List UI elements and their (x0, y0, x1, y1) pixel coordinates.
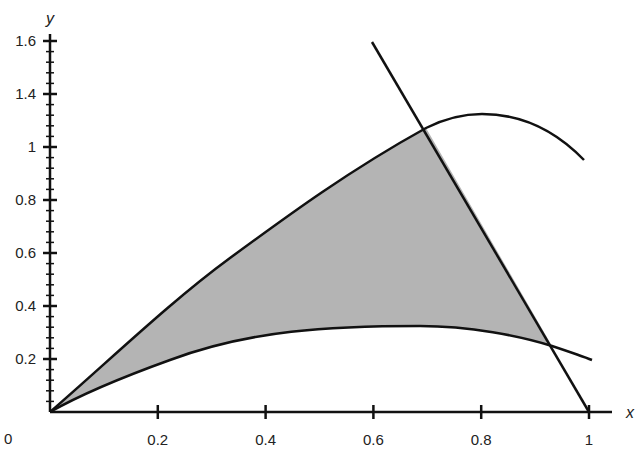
y-tick-label: 0.4 (15, 297, 36, 314)
origin-label: 0 (4, 430, 12, 447)
y-tick-label: 1.4 (15, 85, 36, 102)
y-tick-label: 0.8 (15, 191, 36, 208)
shaded-region (50, 128, 552, 412)
x-tick-label: 0.2 (147, 431, 168, 448)
y-tick-label: 0.6 (15, 244, 36, 261)
y-tick-label: 0.2 (15, 350, 36, 367)
y-tick-label: 1 (28, 138, 36, 155)
x-tick-label: 1 (585, 431, 593, 448)
x-tick-label: 0.4 (255, 431, 276, 448)
chart: 0.20.40.60.811.41.6 0.20.40.60.81 y x 0 (0, 0, 639, 456)
x-axis-label: x (625, 404, 635, 421)
y-axis-label: y (45, 10, 55, 27)
x-tick-label: 0.8 (471, 431, 492, 448)
y-tick-label: 1.6 (15, 32, 36, 49)
x-tick-label: 0.6 (363, 431, 384, 448)
